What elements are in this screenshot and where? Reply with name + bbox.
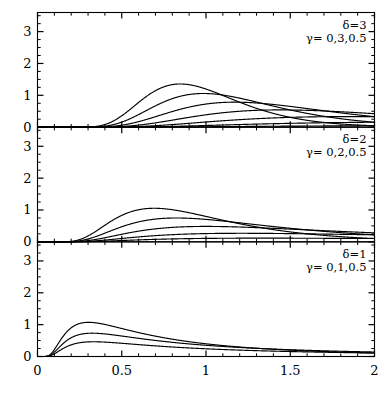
panel-top-ylabel: 3 [23,24,31,39]
panel-top-ylabel: 0 [23,120,31,135]
panel-middle-delta-label: δ=2 [343,132,367,146]
three-panel-density-plot: 01230123012300.511.52 δ=3γ= 0,3,0.5δ=2γ=… [0,0,391,404]
figure-container: 01230123012300.511.52 δ=3γ= 0,3,0.5δ=2γ=… [0,0,391,404]
panel-middle-ylabel: 3 [23,139,31,154]
xlabel-0.5: 0.5 [111,363,132,378]
panel-bottom-delta-label: δ=1 [343,247,367,261]
panel-middle-ylabel: 1 [23,202,31,217]
panel-middle-ylabel: 0 [23,234,31,249]
panel-bottom-ylabel: 0 [23,349,31,364]
xlabel-0: 0 [33,363,41,378]
panel-middle-gamma-label: γ= 0,2,0.5 [306,145,366,159]
xlabel-2: 2 [370,363,378,378]
xlabel-1.5: 1.5 [280,363,301,378]
panel-top-gamma-label: γ= 0,3,0.5 [306,31,366,45]
panel-top-ylabel: 1 [23,88,31,103]
panel-bottom-ylabel: 1 [23,317,31,332]
panel-bottom-gamma-label: γ= 0,1,0.5 [306,260,366,274]
panel-top-ylabel: 2 [23,56,31,71]
xlabel-1: 1 [202,363,210,378]
panel-top-delta-label: δ=3 [343,18,367,32]
panel-middle-ylabel: 2 [23,171,31,186]
panels-group [38,13,375,357]
panel-bottom-ylabel: 3 [23,253,31,268]
panel-annotations-group: δ=3γ= 0,3,0.5δ=2γ= 0,2,0.5δ=1γ= 0,1,0.5 [306,18,366,274]
panel-top-curve-gamma-3 [38,84,375,127]
panel-bottom-ylabel: 2 [23,285,31,300]
